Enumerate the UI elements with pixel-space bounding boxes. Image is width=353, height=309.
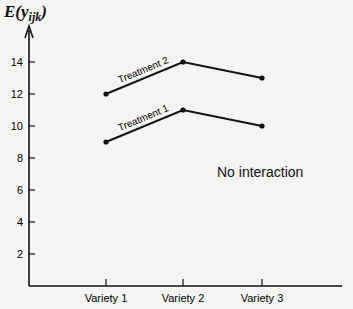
y-tick-label: 6 xyxy=(17,184,23,196)
y-tick-label: 14 xyxy=(11,56,23,68)
y-axis-title-sub: ijk xyxy=(29,10,42,24)
x-tick-label: Variety 1 xyxy=(85,292,128,304)
y-tick-label: 12 xyxy=(11,88,23,100)
y-axis-title-main: E(y xyxy=(4,2,29,21)
data-point xyxy=(180,107,185,112)
labels: Treatment 1Treatment 2 xyxy=(116,54,170,133)
y-tick-label: 8 xyxy=(17,152,23,164)
x-tick-label: Variety 3 xyxy=(241,292,284,304)
y-tick-label: 2 xyxy=(17,248,23,260)
data-point xyxy=(180,59,185,64)
y-tick-label: 4 xyxy=(17,216,23,228)
annotation-no-interaction: No interaction xyxy=(217,164,303,180)
x-tick-label: Variety 2 xyxy=(162,292,205,304)
data-point xyxy=(259,75,264,80)
y-axis-title-close: ) xyxy=(41,2,47,21)
data-point xyxy=(259,123,264,128)
y-axis-title: E(yijk) xyxy=(4,2,47,25)
y-tick-label: 10 xyxy=(11,120,23,132)
interaction-plot: 2468101214Variety 1Variety 2Variety 3 Tr… xyxy=(0,0,353,309)
data-point xyxy=(103,91,108,96)
data-point xyxy=(103,139,108,144)
